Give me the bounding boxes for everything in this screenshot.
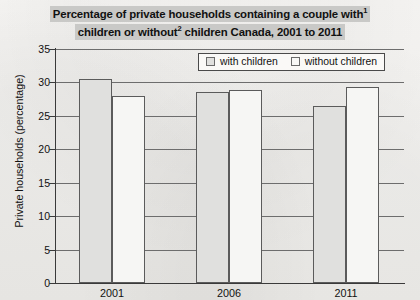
y-axis-tick (49, 283, 55, 284)
y-axis-tick-label: 0 (4, 277, 50, 289)
legend-label-without-children: without children (305, 56, 377, 67)
chart-title: Percentage of private households contain… (0, 4, 420, 40)
legend-item-with-children: with children (206, 56, 278, 67)
y-axis-tick-label: 15 (4, 177, 50, 189)
y-axis-tick (49, 82, 55, 83)
x-axis-category-label-2011: 2011 (334, 287, 357, 299)
legend-item-without-children: without children (291, 56, 377, 67)
bar-2006-with-children (196, 92, 229, 283)
chart-legend: with children without children (198, 53, 385, 71)
bar-2011-without-children (346, 87, 379, 283)
y-axis-tick-label: 30 (4, 76, 50, 88)
bar-2011-with-children (313, 106, 346, 283)
legend-swatch-icon-with-children (206, 57, 215, 66)
bar-2006-without-children (229, 90, 262, 283)
y-axis-tick (49, 49, 55, 50)
y-axis-tick-label: 20 (4, 143, 50, 155)
y-axis-tick-label: 5 (4, 244, 50, 256)
x-axis-line (55, 283, 405, 284)
chart-title-line-1-text: Percentage of private households contain… (53, 8, 363, 20)
chart-title-footnote-1: 1 (363, 6, 367, 15)
legend-label-with-children: with children (220, 56, 278, 67)
plot-area (55, 49, 404, 283)
chart-title-line-2: children or without2 children Canada, 20… (75, 24, 345, 40)
chart-title-line-2-tail: children Canada, 2001 to 2011 (181, 26, 342, 38)
y-axis-tick-label: 35 (4, 43, 50, 55)
chart-title-line-1: Percentage of private households contain… (50, 6, 370, 22)
y-axis-line (55, 48, 56, 284)
bar-2001-with-children (79, 79, 112, 283)
chart-title-line-2-text: children or without (78, 26, 178, 38)
y-axis-tick (49, 250, 55, 251)
gridline (55, 49, 404, 50)
y-axis-tick-label: 25 (4, 110, 50, 122)
y-axis-title: Private households (percentage) (13, 46, 25, 256)
y-axis-tick (49, 183, 55, 184)
bar-2001-without-children (112, 96, 145, 283)
y-axis-tick (49, 149, 55, 150)
x-axis-category-label-2001: 2001 (100, 287, 124, 299)
y-axis-tick-labels: 05101520253035 (0, 0, 50, 300)
y-axis-tick (49, 116, 55, 117)
y-axis-tick (49, 216, 55, 217)
legend-swatch-icon-without-children (291, 57, 300, 66)
y-axis-tick-label: 10 (4, 210, 50, 222)
x-axis-category-label-2006: 2006 (217, 287, 241, 299)
